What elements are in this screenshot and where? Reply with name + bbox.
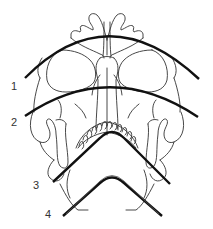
arc-2 — [25, 87, 198, 117]
label-1: 1 — [11, 81, 17, 92]
label-4: 4 — [45, 209, 51, 220]
skull-diagram-svg — [0, 0, 213, 229]
arc-3 — [53, 132, 170, 184]
label-3: 3 — [33, 180, 39, 191]
skull-diagram: 1 2 3 4 — [0, 0, 213, 229]
label-2: 2 — [11, 117, 17, 128]
arc-1 — [25, 36, 199, 79]
teeth-row — [79, 122, 136, 150]
